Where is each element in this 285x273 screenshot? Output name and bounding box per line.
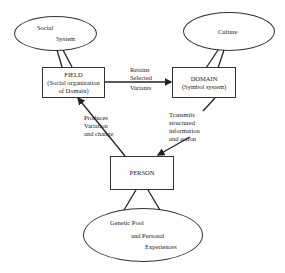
- edge-label-information: information: [169, 127, 200, 135]
- edge-label-produces: Produces: [84, 114, 108, 122]
- edge-label-retains: Retains: [130, 66, 150, 74]
- genetic-pool-label-1: Genetic Pool: [110, 219, 144, 227]
- edge-label-transmits: Transmits: [169, 111, 195, 119]
- domain-node: DOMAIN (Symbol system): [172, 67, 236, 98]
- edge-label-variation: Variation: [84, 122, 108, 130]
- edge-label-action: and action: [169, 135, 196, 143]
- field-node: FIELD (Social organization of Domain): [42, 67, 105, 98]
- person-node: PERSON: [110, 156, 174, 190]
- domain-title: DOMAIN: [191, 75, 218, 83]
- genetic-pool-label-3: Experiences: [145, 243, 177, 251]
- edge-label-structured: structured: [169, 119, 195, 127]
- field-subtitle-2: of Domain): [58, 87, 88, 95]
- social-system-node: [14, 16, 97, 51]
- culture-label: Culture: [218, 28, 238, 36]
- domain-subtitle: (Symbol system): [182, 83, 226, 91]
- field-subtitle-1: (Social organization: [47, 79, 99, 87]
- edge-label-selected: Selected: [130, 74, 152, 82]
- social-system-label-1: Social: [37, 24, 53, 32]
- edge-label-variants: Variants: [130, 84, 151, 92]
- person-title: PERSON: [130, 169, 155, 177]
- edge-label-change: and change: [84, 130, 113, 138]
- genetic-pool-label-2: and Personal: [131, 232, 164, 240]
- field-title: FIELD: [64, 71, 82, 79]
- social-system-label-2: System: [56, 35, 75, 43]
